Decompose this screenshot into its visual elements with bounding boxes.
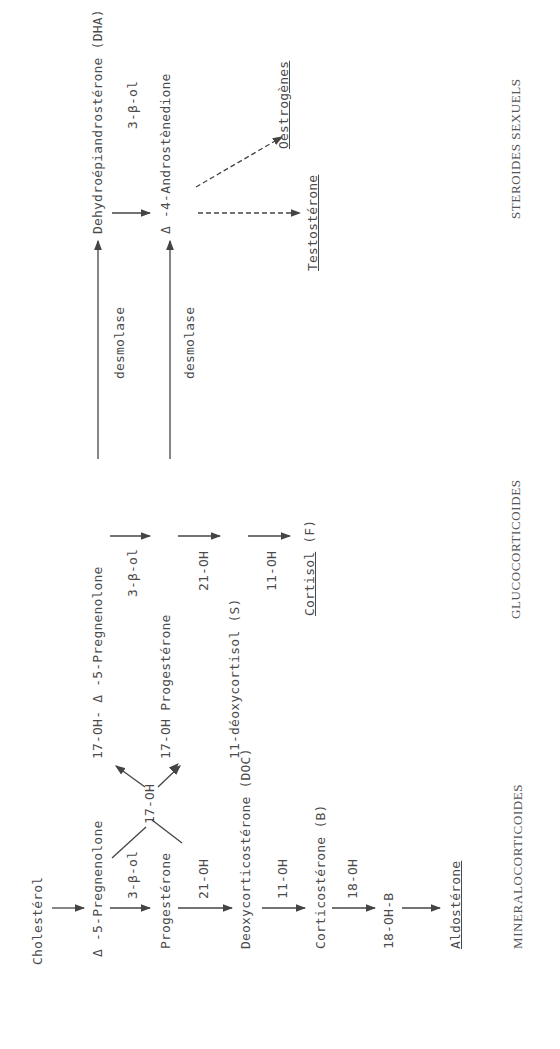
enzyme-21-oh-gluco: 21-OH (196, 551, 212, 591)
cortisol-suffix: (F) (302, 520, 317, 544)
node-doc: Deoxycorticostérone (DOC) (238, 748, 254, 949)
enzyme-desmolase-b: desmolase (182, 307, 198, 379)
node-18-oh-b: 18-OH-B (381, 893, 397, 949)
category-steroides-sexuels: STEROIDES SEXUELS (508, 78, 524, 219)
enzyme-3beta-ol: 3-β-ol (125, 851, 141, 899)
steroid-pathway-diagram: Cholestérol Δ -5-Pregnenolone 3-β-ol Pro… (0, 0, 560, 1049)
enzyme-17-oh: 17-OH (142, 784, 158, 824)
node-aldosterone: Aldostérone (448, 861, 464, 949)
node-androstenedione: Δ -4-Androstènedione (158, 73, 174, 234)
cortisol-name: Cortisol (302, 552, 317, 616)
enzyme-desmolase-a: desmolase (112, 307, 128, 379)
node-testosterone: Testostérone (305, 175, 321, 271)
enzyme-21-oh: 21-OH (196, 859, 212, 899)
enzyme-11-oh-gluco: 11-OH (264, 551, 280, 591)
category-mineralocorticoides: MINERALOCORTICOIDES (510, 784, 526, 949)
node-17oh-progesterone: 17-OH Progestérone (158, 615, 174, 759)
node-11-deoxycortisol: 11-déoxycortisol (S) (227, 598, 243, 759)
enzyme-3beta-ol-dha: 3-β-ol (125, 81, 141, 129)
enzyme-11-oh: 11-OH (275, 859, 291, 899)
node-cholesterol: Cholestérol (30, 877, 46, 965)
node-corticosterone: Corticostérone (B) (313, 805, 329, 949)
node-17oh-pregnenolone: 17-OH- Δ -5-Pregnenolone (90, 566, 106, 759)
enzyme-18-oh: 18-OH (345, 859, 361, 899)
category-glucocorticoides: GLUCOCORTICOIDES (508, 479, 524, 619)
node-progesterone: Progestérone (158, 853, 174, 949)
node-cortisol: Cortisol (F) (302, 520, 318, 616)
node-dha: Dehydroépiandrostérone (DHA) (90, 9, 106, 234)
node-pregnenolone: Δ -5-Pregnenolone (90, 821, 106, 957)
enzyme-3beta-ol-17oh: 3-β-ol (125, 549, 141, 597)
node-oestrogenes: Oestrogènes (276, 61, 292, 149)
